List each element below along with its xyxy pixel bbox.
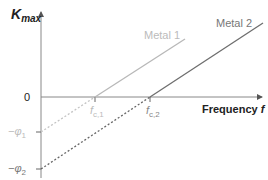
metal1-line bbox=[95, 39, 185, 97]
metal2-label: Metal 2 bbox=[216, 17, 252, 29]
phi2-label: −φ2 bbox=[8, 162, 27, 177]
zero-label: 0 bbox=[24, 91, 30, 103]
metal1-dashed-extension bbox=[41, 97, 95, 132]
metal1-label: Metal 1 bbox=[144, 29, 180, 41]
kmax-vs-frequency-diagram: Kmax 0 Frequency f fc,1 fc,2 −φ1 −φ2 Met… bbox=[0, 0, 268, 180]
y-axis-label: Kmax bbox=[11, 6, 42, 24]
fc1-label: fc,1 bbox=[90, 104, 104, 119]
fc2-label: fc,2 bbox=[146, 104, 160, 119]
phi1-label: −φ1 bbox=[8, 125, 27, 140]
x-axis-label: Frequency f bbox=[202, 103, 266, 115]
metal2-dashed-extension bbox=[41, 97, 150, 169]
